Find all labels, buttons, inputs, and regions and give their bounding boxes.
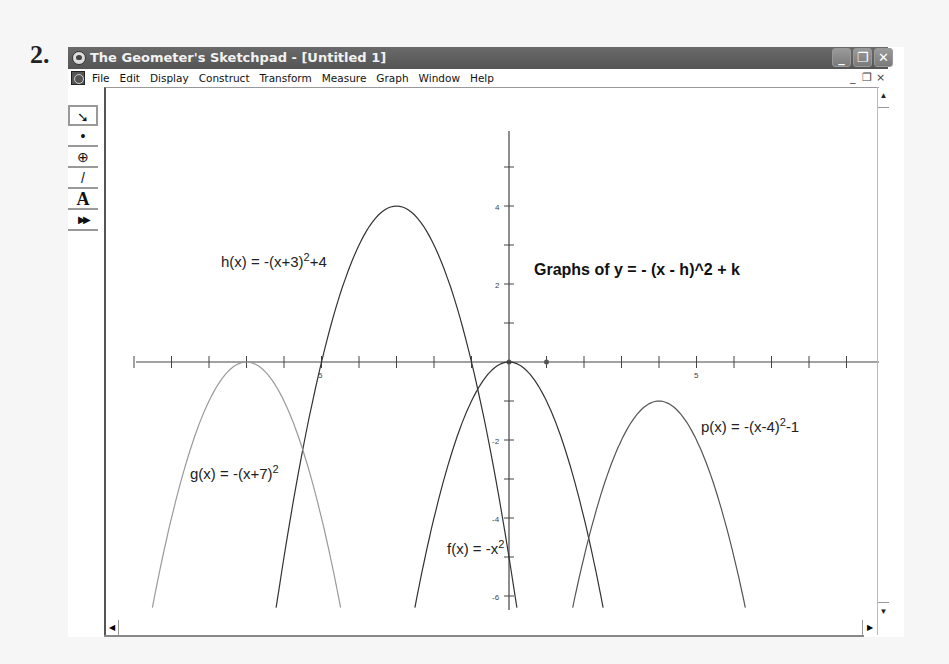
sketch-heading: Graphs of y = - (x - h)^2 + k [534,261,740,278]
menu-window[interactable]: Window [419,69,460,87]
restore-button[interactable]: ❐ [853,48,872,67]
menu-bar: File Edit Display Construct Transform Me… [68,69,888,87]
doc-minimize-button[interactable]: _ [850,69,856,87]
circle-icon: ⊕ [77,149,89,165]
y-tick-label-neg6: -6 [492,593,500,602]
title-bar[interactable]: The Geometer's Sketchpad - [Untitled 1] … [68,47,888,69]
text-icon: A [77,189,90,209]
straightedge-tool[interactable]: / [68,168,98,189]
label-h[interactable]: h(x) = -(x+3)2+4 [221,251,327,270]
y-tick-label-4: 4 [495,203,500,212]
compass-tool[interactable]: ⊕ [68,147,98,168]
minimize-button[interactable]: _ [832,48,851,67]
scroll-left-button[interactable]: ◀ [106,620,119,635]
sketchpad-window: The Geometer's Sketchpad - [Untitled 1] … [68,47,904,637]
line-icon: / [81,170,85,186]
x-tick-label-neg5: 5 [318,371,323,380]
point-tool[interactable]: • [68,126,98,147]
menu-display[interactable]: Display [150,69,189,87]
custom-tool[interactable]: ▶▶ [68,210,98,231]
menu-file[interactable]: File [92,69,110,87]
selection-arrow-tool[interactable]: ➘ [68,105,98,126]
curve-g[interactable] [152,362,340,608]
label-p[interactable]: p(x) = -(x-4)2-1 [701,416,799,435]
point-icon: • [81,128,86,144]
window-title: The Geometer's Sketchpad - [Untitled 1] [90,47,386,69]
label-g[interactable]: g(x) = -(x+7)2 [190,463,279,482]
scroll-up-button[interactable]: ▲ [878,87,889,108]
toolbox: ➘ • ⊕ / A ▶▶ [68,105,102,231]
arrow-icon: ➘ [77,109,89,125]
menu-transform[interactable]: Transform [260,69,312,87]
menu-graph[interactable]: Graph [376,69,408,87]
horizontal-scrollbar-track[interactable] [104,635,864,637]
curve-labels: Graphs of y = - (x - h)^2 + k h(x) = -(x… [190,203,799,602]
y-tick-label-2: 2 [495,281,500,290]
y-tick-label-neg4: -4 [492,515,500,524]
x-tick-label-5: 5 [694,371,699,380]
doc-restore-button[interactable]: ❐ [862,69,872,87]
text-tool[interactable]: A [68,189,98,210]
document-icon[interactable] [71,71,85,85]
menu-measure[interactable]: Measure [322,69,367,87]
vertical-scrollbar[interactable]: ▲ ▼ [877,87,889,635]
menu-help[interactable]: Help [470,69,494,87]
doc-close-button[interactable]: × [876,69,885,87]
menu-edit[interactable]: Edit [120,69,140,87]
fast-forward-icon: ▶▶ [78,214,88,225]
scroll-right-button[interactable]: ▶ [862,620,877,635]
problem-number: 2. [30,40,50,70]
menu-construct[interactable]: Construct [199,69,250,87]
label-f[interactable]: f(x) = -x2 [447,538,504,557]
graph-plot: Graphs of y = - (x - h)^2 + k h(x) = -(x… [106,88,879,636]
close-button[interactable]: ✕ [874,48,893,67]
app-icon[interactable] [72,51,86,65]
scroll-down-button[interactable]: ▼ [878,602,889,623]
sketch-canvas[interactable]: Graphs of y = - (x - h)^2 + k h(x) = -(x… [104,87,879,636]
y-tick-label-neg2: -2 [492,437,500,446]
